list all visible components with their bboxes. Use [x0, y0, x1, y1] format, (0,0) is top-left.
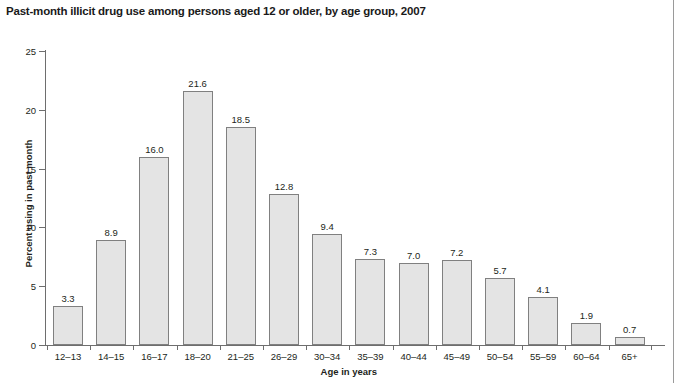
- bar: [355, 259, 385, 345]
- bar-value-label: 1.9: [563, 311, 609, 321]
- x-axis-tick: [565, 345, 566, 350]
- bar: [183, 91, 213, 345]
- y-axis-tick: [39, 345, 45, 346]
- bar-value-label: 16.0: [131, 145, 177, 155]
- x-axis-tick: [177, 345, 178, 350]
- x-axis-tick: [306, 345, 307, 350]
- x-axis-tick: [479, 345, 480, 350]
- bar-value-label: 4.1: [520, 285, 566, 295]
- bar-value-label: 0.7: [607, 325, 653, 335]
- x-axis-tick: [90, 345, 91, 350]
- x-axis-category-label: 65+: [604, 352, 656, 362]
- y-axis-tick-label: 10: [25, 223, 36, 233]
- bar-value-label: 8.9: [88, 228, 134, 238]
- y-axis-tick: [39, 51, 45, 52]
- bar-value-label: 3.3: [45, 294, 91, 304]
- bar-value-label: 7.2: [434, 248, 480, 258]
- x-axis-tick: [522, 345, 523, 350]
- bar: [96, 240, 126, 345]
- bar: [269, 194, 299, 345]
- bar: [312, 234, 342, 345]
- bar: [139, 157, 169, 345]
- bar: [571, 323, 601, 345]
- bar-value-label: 21.6: [175, 79, 221, 89]
- bar: [399, 263, 429, 345]
- y-axis-tick: [39, 110, 45, 111]
- y-axis-tick-label: 15: [25, 165, 36, 175]
- bar: [528, 297, 558, 345]
- x-axis-tick: [220, 345, 221, 350]
- bar: [53, 306, 83, 345]
- y-axis-tick-label: 25: [25, 47, 36, 57]
- x-axis-tick: [133, 345, 134, 350]
- x-axis-tick: [393, 345, 394, 350]
- bar: [485, 278, 515, 345]
- bar-value-label: 18.5: [218, 115, 264, 125]
- x-axis-tick: [651, 345, 652, 350]
- x-axis-line: [45, 345, 665, 346]
- x-axis-tick: [609, 345, 610, 350]
- x-axis-tick: [263, 345, 264, 350]
- y-axis-tick: [39, 286, 45, 287]
- y-axis-tick-label: 5: [31, 282, 36, 292]
- x-axis-tick: [47, 345, 48, 350]
- y-axis-tick: [39, 169, 45, 170]
- y-axis-tick-label: 20: [25, 106, 36, 116]
- x-axis-title: Age in years: [289, 366, 409, 377]
- x-axis-tick: [349, 345, 350, 350]
- bar: [226, 127, 256, 345]
- bar-value-label: 12.8: [261, 182, 307, 192]
- y-axis-tick: [39, 227, 45, 228]
- y-axis-title: Percent using in past month: [23, 124, 34, 284]
- chart-title: Past-month illicit drug use among person…: [6, 5, 426, 17]
- chart-figure: Past-month illicit drug use among person…: [0, 0, 690, 383]
- x-axis-tick: [436, 345, 437, 350]
- y-axis-tick-label: 0: [31, 341, 36, 351]
- bar-value-label: 5.7: [477, 266, 523, 276]
- bar-value-label: 9.4: [304, 222, 350, 232]
- bar: [615, 337, 645, 345]
- page-border-rule: [673, 0, 674, 383]
- bar: [442, 260, 472, 345]
- bar-value-label: 7.0: [391, 251, 437, 261]
- bar-value-label: 7.3: [347, 247, 393, 257]
